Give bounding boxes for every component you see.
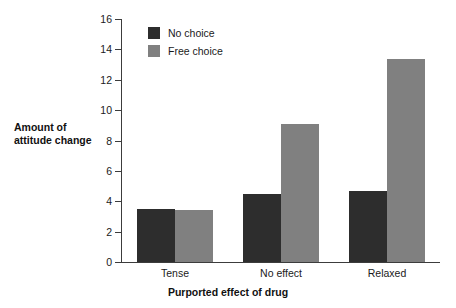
bar-no-effect-no-choice (243, 194, 281, 262)
y-axis-tick (115, 262, 121, 263)
y-axis-title-line-2: attitude change (14, 134, 94, 147)
legend-swatch-icon-no-choice (148, 27, 160, 39)
legend-item-no-choice: No choice (148, 24, 223, 42)
y-axis-tick-label-text: 12 (88, 75, 112, 86)
y-axis-tick-label: 0 (88, 257, 112, 268)
y-axis-tick (115, 80, 121, 81)
x-axis-title: Purported effect of drug (0, 286, 456, 298)
y-axis-tick-label: 14 (88, 44, 112, 55)
x-axis-tick-label: No effect (231, 267, 331, 279)
y-axis-tick-label-text: 0 (88, 257, 112, 268)
y-axis-tick-label: 12 (88, 75, 112, 86)
legend: No choice Free choice (148, 24, 223, 60)
x-axis-tick-label: Relaxed (337, 267, 437, 279)
y-axis-tick (115, 201, 121, 202)
y-axis-tick (115, 49, 121, 50)
x-axis-tick-label: Tense (125, 267, 225, 279)
y-axis-tick-label-text: 4 (88, 196, 112, 207)
y-axis-tick-label-text: 14 (88, 44, 112, 55)
y-axis-tick-label: 6 (88, 166, 112, 177)
y-axis-tick-label-text: 10 (88, 105, 112, 116)
bar-relaxed-free-choice (387, 59, 425, 263)
y-axis-tick-label-text: 8 (88, 136, 112, 147)
y-axis-title-line-1: Amount of (14, 121, 94, 134)
y-axis-tick-label: 8 (88, 136, 112, 147)
legend-swatch-icon-free-choice (148, 45, 160, 57)
bar-chart: Amount of attitude change 0246810121416 … (0, 0, 456, 308)
y-axis-tick-label: 2 (88, 227, 112, 238)
y-axis-tick-label-text: 16 (88, 14, 112, 25)
bar-relaxed-no-choice (349, 191, 387, 262)
legend-item-free-choice: Free choice (148, 42, 223, 60)
y-axis-tick (115, 141, 121, 142)
bar-tense-free-choice (175, 210, 213, 262)
y-axis-tick (115, 171, 121, 172)
y-axis-tick (115, 19, 121, 20)
y-axis-tick-label: 4 (88, 196, 112, 207)
y-axis-tick-label: 10 (88, 105, 112, 116)
bar-no-effect-free-choice (281, 124, 319, 262)
legend-label-free-choice: Free choice (168, 46, 223, 57)
x-axis-line (121, 262, 440, 263)
y-axis-title: Amount of attitude change (14, 121, 94, 147)
y-axis-tick (115, 110, 121, 111)
y-axis-tick-label-text: 2 (88, 227, 112, 238)
y-axis-tick-label: 16 (88, 14, 112, 25)
legend-label-no-choice: No choice (168, 28, 215, 39)
y-axis-tick-label-text: 6 (88, 166, 112, 177)
y-axis-tick (115, 232, 121, 233)
bar-tense-no-choice (137, 209, 175, 262)
